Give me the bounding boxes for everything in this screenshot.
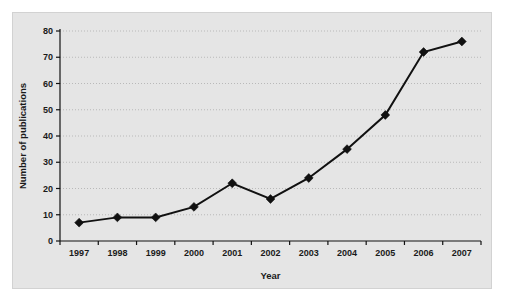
x-axis-title: Year <box>260 270 280 281</box>
y-tick-label: 80 <box>43 26 53 36</box>
data-point-marker <box>228 179 237 188</box>
gridlines-group <box>60 31 481 215</box>
x-tick-label: 2003 <box>299 248 319 258</box>
data-point-marker <box>151 213 160 222</box>
x-tick-label: 2005 <box>375 248 395 258</box>
data-point-marker <box>190 202 199 211</box>
data-point-marker <box>419 48 428 57</box>
x-tick-label: 1998 <box>107 248 127 258</box>
figure-container: 01020304050607080 1997199819992000200120… <box>0 0 505 303</box>
x-tick-label: 2000 <box>184 248 204 258</box>
y-tick-label: 0 <box>48 236 53 246</box>
y-tick-label: 10 <box>43 210 53 220</box>
y-tick-label: 30 <box>43 157 53 167</box>
data-point-marker <box>266 195 275 204</box>
x-axis-tick-labels: 1997199819992000200120022003200420052006… <box>69 248 472 258</box>
y-axis-tick-labels: 01020304050607080 <box>43 26 53 246</box>
x-tick-label: 2002 <box>260 248 280 258</box>
x-tick-label: 1997 <box>69 248 89 258</box>
line-chart-plot: 01020304050607080 1997199819992000200120… <box>13 13 491 288</box>
y-tick-label: 40 <box>43 131 53 141</box>
y-tick-label: 50 <box>43 105 53 115</box>
x-tick-label: 2001 <box>222 248 242 258</box>
x-axis-ticks-group <box>60 241 481 245</box>
y-tick-label: 20 <box>43 184 53 194</box>
data-point-marker <box>75 218 84 227</box>
x-tick-label: 2007 <box>452 248 472 258</box>
y-tick-label: 60 <box>43 79 53 89</box>
x-tick-label: 1999 <box>146 248 166 258</box>
x-tick-label: 2004 <box>337 248 357 258</box>
x-tick-label: 2006 <box>414 248 434 258</box>
data-point-marker <box>457 37 466 46</box>
y-tick-label: 70 <box>43 52 53 62</box>
data-point-markers <box>75 37 467 227</box>
y-axis-title: Number of publications <box>17 83 28 189</box>
chart-panel: 01020304050607080 1997199819992000200120… <box>12 12 492 289</box>
